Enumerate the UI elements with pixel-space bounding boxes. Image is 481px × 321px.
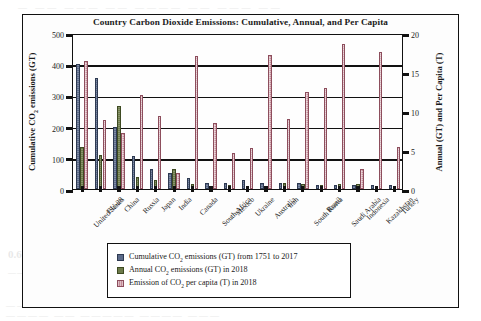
left-axis-tick-label: 0 bbox=[60, 187, 64, 196]
bar-group bbox=[113, 35, 124, 189]
bar bbox=[103, 120, 106, 189]
left-axis-tick-label: 400 bbox=[52, 62, 64, 71]
x-axis-tick bbox=[191, 186, 194, 192]
bar bbox=[195, 56, 198, 189]
left-axis-tick-label: 100 bbox=[52, 155, 64, 164]
bar bbox=[80, 147, 83, 189]
right-axis-label-text: Annual (GT) and Per Capita (T) bbox=[434, 53, 444, 172]
right-axis-tick bbox=[402, 151, 409, 154]
page-bleed-line-1: — —— ——— —— ———— —— ——— —— bbox=[18, 2, 283, 12]
x-axis-label: Canada bbox=[197, 195, 219, 217]
x-axis-tick bbox=[246, 186, 249, 192]
bar bbox=[324, 88, 327, 189]
x-axis-tick bbox=[283, 186, 286, 192]
bar bbox=[187, 178, 190, 189]
bar bbox=[113, 127, 116, 189]
bar-group bbox=[389, 35, 400, 189]
x-axis-tick bbox=[136, 186, 139, 192]
bar bbox=[360, 169, 363, 189]
bar bbox=[371, 185, 374, 189]
annual-swatch-icon bbox=[117, 267, 124, 274]
bar bbox=[84, 61, 87, 189]
plot-area: 0100200300400500 05101520 bbox=[72, 34, 403, 190]
bar bbox=[224, 183, 227, 189]
bar-group bbox=[297, 35, 308, 189]
bar-group bbox=[371, 35, 382, 189]
bar-group bbox=[279, 35, 290, 189]
bar bbox=[397, 147, 400, 189]
x-axis-tick bbox=[338, 186, 341, 192]
bar-series-container bbox=[73, 35, 402, 189]
x-axis-label: Japan bbox=[159, 195, 177, 213]
bar bbox=[250, 148, 253, 189]
bar-group bbox=[132, 35, 143, 189]
bar bbox=[268, 55, 271, 189]
bar-group bbox=[224, 35, 235, 189]
legend-item-label: Annual CO2 emissions (GT) in 2018 bbox=[129, 265, 248, 276]
bar-group bbox=[242, 35, 253, 189]
left-axis-tick bbox=[66, 34, 73, 37]
legend-item-label: Emission of CO2 per capita (T) in 2018 bbox=[129, 278, 257, 289]
bar bbox=[379, 52, 382, 189]
bar bbox=[132, 156, 135, 189]
bar-group bbox=[187, 35, 198, 189]
bar bbox=[117, 106, 120, 189]
x-axis-tick bbox=[173, 186, 176, 192]
bar bbox=[150, 169, 153, 189]
left-axis-tick bbox=[66, 158, 73, 161]
bar bbox=[232, 153, 235, 189]
left-axis-label: Cumulative CO2 emissions (GT) bbox=[26, 34, 40, 190]
bar-group bbox=[260, 35, 271, 189]
bar bbox=[305, 92, 308, 189]
x-axis-tick bbox=[99, 186, 102, 192]
x-axis-tick bbox=[154, 186, 157, 192]
bar-group bbox=[334, 35, 345, 189]
x-axis-tick bbox=[117, 186, 120, 192]
x-axis-label: Russia bbox=[141, 195, 161, 215]
right-axis-label: Annual (GT) and Per Capita (T) bbox=[432, 34, 446, 190]
x-axis-tick bbox=[301, 186, 304, 192]
bar bbox=[176, 173, 179, 189]
right-axis-tick bbox=[402, 34, 409, 37]
right-axis-tick bbox=[402, 112, 409, 115]
bar bbox=[342, 44, 345, 189]
bar-group bbox=[95, 35, 106, 189]
bar bbox=[242, 180, 245, 189]
bar-group bbox=[168, 35, 179, 189]
x-axis-tick bbox=[320, 186, 323, 192]
bar bbox=[287, 119, 290, 189]
bar-group bbox=[316, 35, 327, 189]
legend-item: Cumulative CO2 emissions (GT) from 1751 … bbox=[117, 252, 342, 263]
bar bbox=[260, 183, 263, 189]
bar bbox=[352, 185, 355, 189]
x-axis-tick bbox=[264, 186, 267, 192]
bar bbox=[99, 155, 102, 189]
bar bbox=[205, 183, 208, 189]
right-axis-tick-label: 20 bbox=[411, 31, 419, 40]
bar bbox=[316, 185, 319, 189]
legend-item: Emission of CO2 per capita (T) in 2018 bbox=[117, 278, 342, 289]
x-axis-tick bbox=[375, 186, 378, 192]
x-axis-tick bbox=[393, 186, 396, 192]
legend-item-label: Cumulative CO2 emissions (GT) from 1751 … bbox=[129, 252, 297, 263]
left-axis-label-text: Cumulative CO2 emissions (GT) bbox=[27, 53, 39, 171]
legend-item: Annual CO2 emissions (GT) in 2018 bbox=[117, 265, 342, 276]
x-axis-tick bbox=[228, 186, 231, 192]
x-axis-tick bbox=[209, 186, 212, 192]
bar bbox=[389, 185, 392, 189]
left-axis-tick-label: 200 bbox=[52, 124, 64, 133]
x-axis-label: India bbox=[177, 195, 194, 212]
bar bbox=[297, 183, 300, 189]
right-axis-tick-label: 15 bbox=[411, 70, 419, 79]
bar-group bbox=[352, 35, 363, 189]
chart-legend: Cumulative CO2 emissions (GT) from 1751 … bbox=[107, 243, 351, 298]
x-axis-label: China bbox=[122, 195, 141, 214]
left-axis-tick-label: 300 bbox=[52, 93, 64, 102]
bar bbox=[158, 116, 161, 189]
bar bbox=[168, 173, 171, 189]
bar bbox=[76, 64, 79, 189]
bar-group bbox=[76, 35, 87, 189]
bar bbox=[279, 183, 282, 189]
bar-group bbox=[150, 35, 161, 189]
right-axis-tick-label: 5 bbox=[411, 148, 415, 157]
